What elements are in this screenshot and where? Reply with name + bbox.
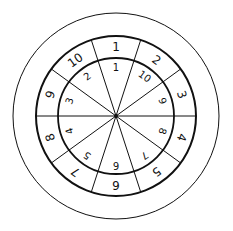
outer-ring-label: 9 [43,89,59,101]
inner-ring-label: 8 [156,126,168,135]
inner-ring-label: 5 [81,149,93,162]
inner-ring-label: 2 [81,70,93,83]
outer-ring-label: 2 [149,52,163,68]
outer-ring-label: 8 [43,132,59,144]
outer-ring-label: 6 [112,178,120,192]
inner-ring-label: 1 [113,62,119,73]
outer-ring-label: 4 [174,132,190,144]
outer-ring-label: 5 [149,164,163,180]
number-wheel-diagram: 12345678910 11098765432 [0,0,233,231]
inner-ring-label: 9 [156,96,168,105]
inner-ring-label: 3 [63,96,75,105]
outer-ring-label: 3 [174,89,190,101]
inner-ring-label: 7 [139,149,151,162]
outer-ring-label: 7 [68,164,82,180]
inner-ring-label: 6 [113,160,119,171]
outer-ring-label: 1 [112,40,120,54]
center-dot [114,114,118,118]
inner-ring-label: 4 [63,126,75,135]
